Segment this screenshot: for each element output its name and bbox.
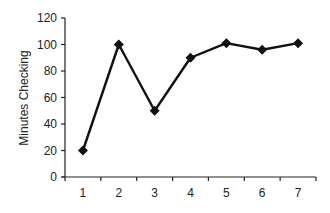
x-axis-ticks: 1234567	[65, 177, 316, 200]
x-tick-label: 6	[259, 186, 266, 200]
data-markers	[78, 38, 303, 155]
diamond-marker-icon	[257, 45, 267, 55]
y-axis-title: Minutes Checking	[17, 50, 31, 145]
diamond-marker-icon	[78, 146, 88, 156]
y-axis-ticks: 020406080100120	[37, 11, 65, 184]
x-tick-label: 5	[223, 186, 230, 200]
y-tick-label: 60	[44, 91, 58, 105]
diamond-marker-icon	[114, 40, 124, 50]
x-tick-label: 2	[115, 186, 122, 200]
diamond-marker-icon	[221, 38, 231, 48]
y-tick-label: 0	[50, 170, 57, 184]
y-tick-label: 40	[44, 117, 58, 131]
x-tick-label: 1	[80, 186, 87, 200]
x-tick-label: 4	[187, 186, 194, 200]
y-tick-label: 120	[37, 11, 57, 25]
line-chart: Minutes Checking 020406080100120 1234567	[0, 0, 330, 213]
x-tick-label: 7	[295, 186, 302, 200]
y-tick-label: 80	[44, 64, 58, 78]
x-tick-label: 3	[151, 186, 158, 200]
y-tick-label: 20	[44, 144, 58, 158]
diamond-marker-icon	[293, 38, 303, 48]
y-tick-label: 100	[37, 38, 57, 52]
